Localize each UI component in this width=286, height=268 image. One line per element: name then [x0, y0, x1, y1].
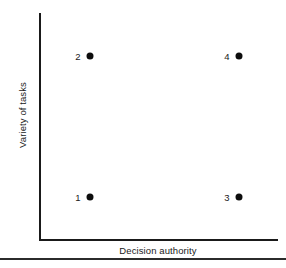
- data-point-label: 1: [75, 192, 80, 203]
- x-axis-label: Decision authority: [119, 245, 196, 256]
- data-point-marker: [236, 194, 243, 201]
- data-point-label: 3: [224, 192, 229, 203]
- bottom-divider: [0, 258, 286, 260]
- x-axis-line: [39, 239, 278, 241]
- data-point-marker: [87, 194, 94, 201]
- data-point-label: 2: [75, 51, 80, 62]
- data-point-marker: [236, 53, 243, 60]
- scatter-plot-figure: Variety of tasks Decision authority 1 2 …: [0, 0, 286, 268]
- data-point-marker: [87, 53, 94, 60]
- y-axis-line: [39, 13, 41, 241]
- y-axis-label: Variety of tasks: [17, 82, 28, 148]
- data-point-label: 4: [224, 51, 229, 62]
